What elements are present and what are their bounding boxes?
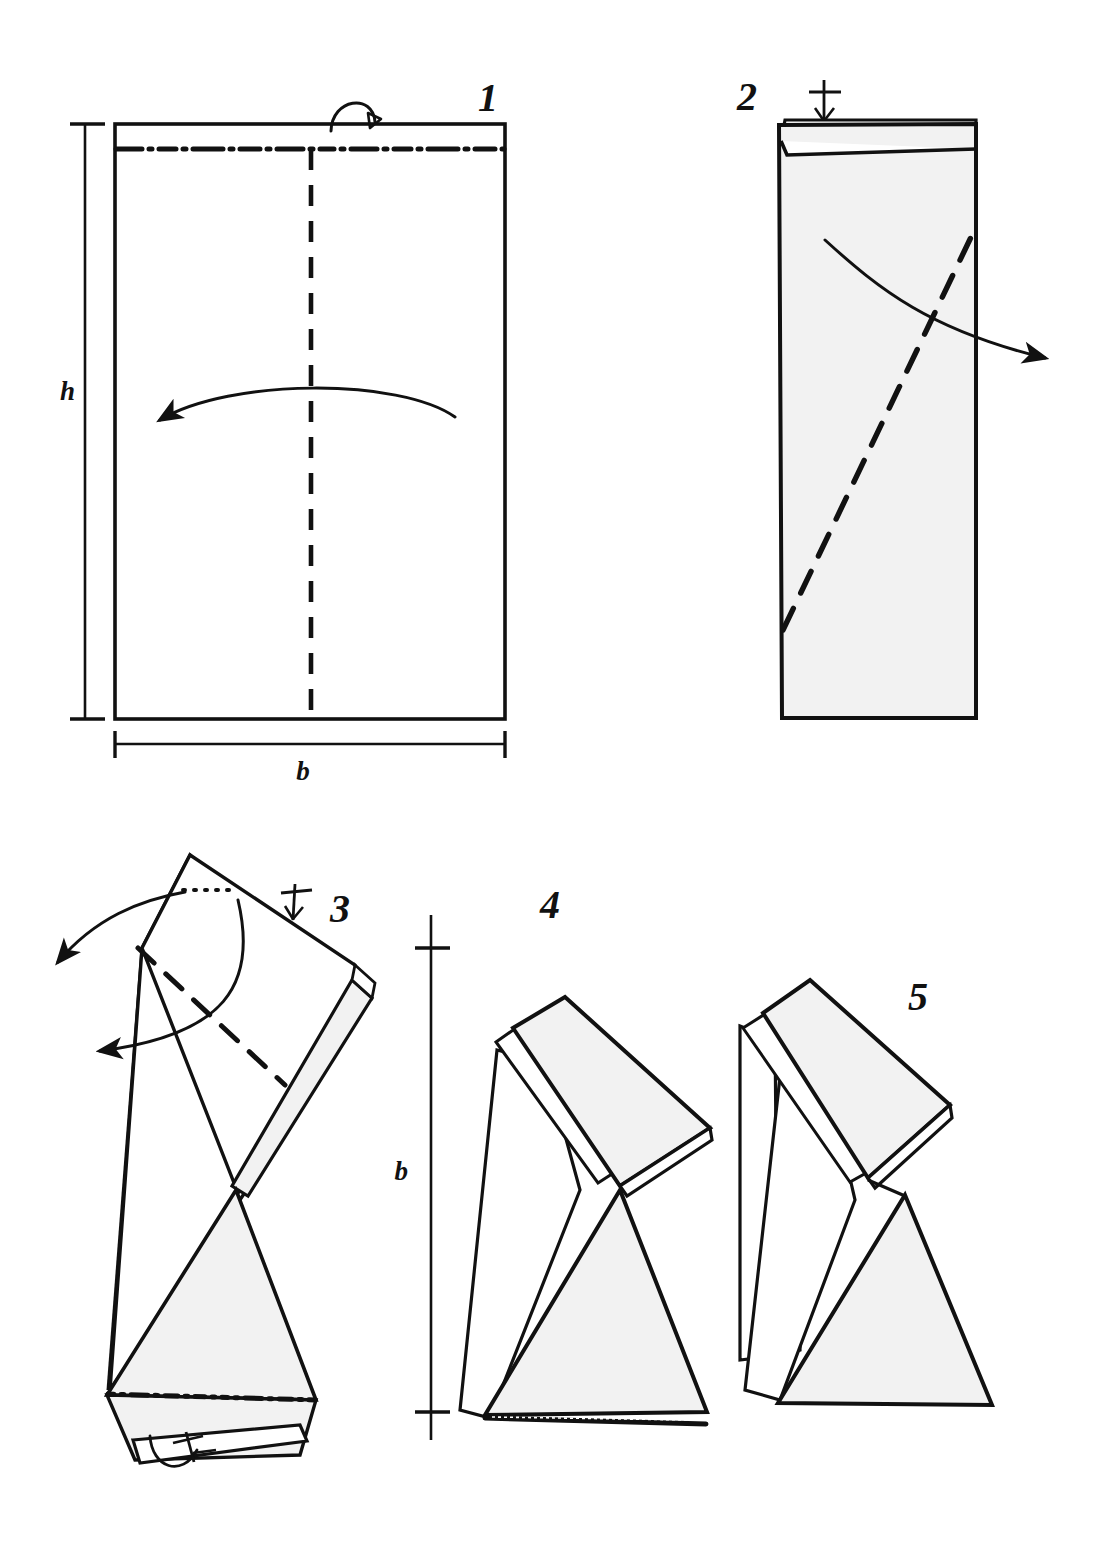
step-label-2: 2 (736, 74, 757, 119)
step-label-1: 1 (478, 75, 498, 120)
step-label-4: 4 (539, 882, 560, 927)
dimension-label-b-step4: b (395, 1156, 409, 1186)
step-label-3: 3 (329, 886, 350, 931)
step-label-5: 5 (908, 974, 928, 1019)
dimension-label-b-step1: b (296, 756, 310, 786)
fold-instruction-diagram: h b 1 (0, 0, 1113, 1565)
step-1-group: h b 1 (60, 75, 505, 786)
step-2-paper-body (779, 124, 976, 718)
dimension-label-h: h (60, 376, 75, 406)
diagram-page: h b 1 (0, 0, 1113, 1565)
